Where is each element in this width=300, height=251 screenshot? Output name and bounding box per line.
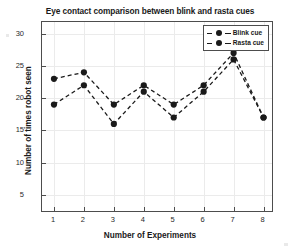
chart-title: Eye contact comparison between blink and… [0,6,300,16]
legend-item-rasta-cue: Rasta cue [207,38,264,48]
data-point [201,82,207,88]
series-line [54,59,264,124]
series-rasta-cue [51,56,267,127]
data-point [111,121,117,127]
x-axis-tick-label: 5 [171,215,175,224]
data-point [51,76,57,82]
scan-artifact [284,243,288,246]
chart-legend: Blink cue Rasta cue [203,25,269,51]
x-axis-tick-label: 4 [141,215,145,224]
x-axis-tick-label: 6 [201,215,205,224]
data-point [230,56,236,62]
y-axis-title: Number of times robot seen [24,31,33,211]
scan-artifact [6,34,9,37]
plot-area: Blink cue Rasta cue [41,21,273,212]
data-point [171,101,177,107]
data-point [51,101,57,107]
legend-marker-icon [207,29,233,38]
data-point [81,82,87,88]
legend-item-blink-cue: Blink cue [207,28,264,38]
data-point [81,69,87,75]
legend-label: Blink cue [233,28,262,38]
data-point [260,114,266,120]
x-axis-tick-label: 1 [51,215,55,224]
legend-label: Rasta cue [233,38,264,48]
legend-marker-icon [207,39,233,48]
x-axis-tick-label: 3 [111,215,115,224]
x-axis-title: Number of Experiments [0,231,300,240]
data-point [141,82,147,88]
data-point [141,89,147,95]
x-axis-tick-label: 7 [230,215,234,224]
data-point [111,101,117,107]
data-point [171,114,177,120]
data-point [201,89,207,95]
chart-figure: Eye contact comparison between blink and… [0,0,300,251]
x-axis-tick-label: 2 [81,215,85,224]
x-axis-tick-label: 8 [260,215,264,224]
